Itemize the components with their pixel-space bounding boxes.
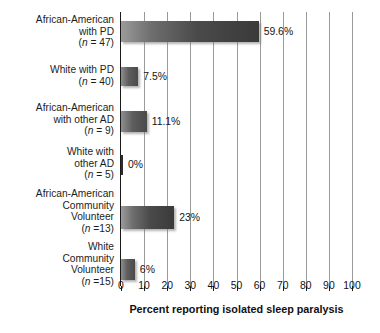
category-label-line: African-American [0,14,114,26]
category-label-line: African-American [0,188,114,200]
category-sample-size: (n =13) [0,223,114,235]
x-tick-label: 20 [161,280,173,292]
category-label: WhiteCommunityVolunteer(n =15) [0,241,114,287]
category-label-line: Volunteer [0,264,114,276]
gridline [329,12,330,286]
bar-chart-figure: African-Americanwith PD(n = 47)White wit… [0,0,380,333]
category-axis-labels: African-Americanwith PD(n = 47)White wit… [0,12,114,286]
x-tick-label: 40 [208,280,220,292]
category-sample-size: (n = 9) [0,125,114,137]
category-label: White with PD(n = 40) [0,64,114,87]
bar-row: 59.6% [121,21,352,42]
category-label: African-Americanwith other AD(n = 9) [0,102,114,137]
bar-row: 6% [121,259,352,280]
x-tick-label: 10 [138,280,150,292]
category-label: African-AmericanCommunityVolunteer(n =13… [0,188,114,234]
gridline [167,12,168,286]
x-tick-label: 70 [277,280,289,292]
category-sample-size: (n = 5) [0,169,114,181]
bar [121,259,135,280]
bar-value-label: 7.5% [143,71,167,83]
x-tick-label: 80 [300,280,312,292]
category-sample-size: (n = 47) [0,37,114,49]
x-axis-title: Percent reporting isolated sleep paralys… [121,303,352,315]
bar-row: 23% [121,206,352,229]
gridline [237,12,238,286]
category-label: White withother AD(n = 5) [0,146,114,181]
x-tick-label: 30 [185,280,197,292]
category-sample-size: (n = 40) [0,76,114,88]
x-tick-label: 100 [343,280,360,292]
value-axis-line [120,12,122,286]
x-tick-label: 50 [231,280,243,292]
plot-area: 59.6%7.5%11.1%0%23%6% [121,12,352,286]
bar-value-label: 6% [140,264,155,276]
gridline [306,12,307,286]
x-tick-label: 60 [254,280,266,292]
category-label: African-Americanwith PD(n = 47) [0,14,114,49]
bar-value-label: 59.6% [264,26,293,38]
bar [121,111,147,132]
bar [121,67,138,86]
bar [121,155,123,175]
bar-value-label: 23% [179,212,200,224]
gridline [352,12,353,286]
bar-row: 11.1% [121,111,352,132]
category-label-line: with other AD [0,114,114,126]
gridline [144,12,145,286]
category-label-line: other AD [0,158,114,170]
category-label-line: Volunteer [0,211,114,223]
category-label-line: White with [0,146,114,158]
bar-value-label: 11.1% [152,116,181,128]
bar [121,206,174,229]
bar-value-label: 0% [128,159,143,171]
category-label-line: with PD [0,26,114,38]
gridline [190,12,191,286]
bar [121,21,259,42]
x-tick-label: 90 [323,280,335,292]
gridline [283,12,284,286]
x-tick-label: 0 [118,280,124,292]
category-label-line: White [0,241,114,253]
gridline [213,12,214,286]
category-label-line: White with PD [0,64,114,76]
category-sample-size: (n =15) [0,276,114,288]
category-label-line: Community [0,200,114,212]
gridline [260,12,261,286]
category-label-line: African-American [0,102,114,114]
category-label-line: Community [0,253,114,265]
bar-row: 7.5% [121,67,352,86]
bar-row: 0% [121,155,352,175]
